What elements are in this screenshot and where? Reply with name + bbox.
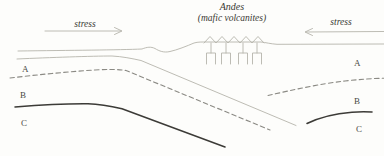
layer-label-b-right: B: [354, 96, 361, 106]
layer-ab-boundary-left-dashed-line: [10, 69, 270, 130]
layer-label-b-left: B: [20, 90, 27, 100]
layer-bc-boundary-right-line: [307, 112, 372, 124]
subducting-slab-line: [17, 56, 296, 126]
layer-label-a-left: A: [22, 64, 29, 74]
andes-subtitle-label: (mafic volcanites): [198, 13, 266, 24]
layer-label-c-right: C: [356, 124, 363, 134]
andes-title-label: Andes: [219, 1, 245, 12]
layer-label-a-right: A: [354, 58, 361, 68]
magma-conduit-icon: [207, 43, 262, 64]
surface-line: [18, 42, 384, 52]
stress-label-right: stress: [330, 17, 352, 27]
subduction-diagram: Andes (mafic volcanites) stress stress A…: [0, 0, 384, 156]
layer-ab-boundary-right-dashed-line: [268, 78, 384, 95]
diagram-canvas: Andes (mafic volcanites) stress stress A…: [0, 0, 384, 156]
stress-arrow-right-shaft: [306, 32, 384, 33]
stress-arrow-right: [305, 29, 384, 36]
layer-bc-boundary-left-line: [15, 104, 225, 147]
stress-label-left: stress: [74, 19, 96, 29]
layer-label-c-left: C: [21, 118, 28, 128]
